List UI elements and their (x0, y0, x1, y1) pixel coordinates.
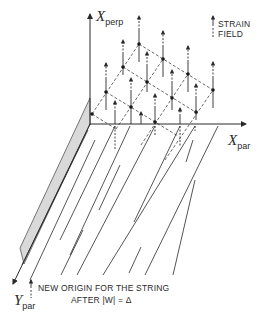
strain-field-arrows (106, 16, 213, 150)
x-par-main: X (228, 132, 237, 148)
caption-line2: AFTER |W| = Δ (71, 296, 132, 305)
shaded-boundary-plane (20, 98, 90, 264)
strain-field-diagram (0, 0, 258, 316)
lattice-grid (92, 44, 213, 160)
caption-line1: NEW ORIGIN FOR THE STRING (38, 284, 169, 293)
x-perp-axis-label: Xperp (96, 8, 123, 24)
x-perp-main: X (96, 8, 105, 24)
y-par-axis-label: Ypar (14, 292, 35, 308)
legend-label-line1: STRAIN (218, 20, 250, 29)
y-par-sub: par (22, 301, 35, 311)
x-par-sub: par (237, 141, 250, 151)
legend-label-line2: FIELD (218, 30, 243, 39)
x-par-axis-label: Xpar (228, 132, 250, 148)
lattice-points (90, 42, 215, 124)
x-perp-sub: perp (105, 17, 123, 27)
